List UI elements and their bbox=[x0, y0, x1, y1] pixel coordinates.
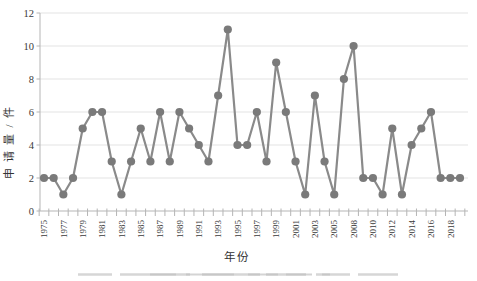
x-tick-label: 2018 bbox=[446, 220, 456, 239]
data-point bbox=[437, 174, 445, 182]
x-tick-label: 1995 bbox=[233, 220, 243, 239]
data-point bbox=[195, 141, 203, 149]
data-point bbox=[272, 58, 280, 66]
data-point bbox=[446, 174, 454, 182]
data-point bbox=[40, 174, 48, 182]
data-point bbox=[359, 174, 367, 182]
x-tick-label: 1991 bbox=[194, 220, 204, 238]
x-tick-label: 2012 bbox=[387, 220, 397, 238]
x-tick-label: 1977 bbox=[59, 220, 69, 239]
data-point bbox=[127, 157, 135, 165]
y-tick-label: 0 bbox=[29, 206, 34, 217]
chart-figure: 0246810121975197719791981198319851987198… bbox=[0, 0, 477, 281]
data-point bbox=[262, 157, 270, 165]
x-tick-label: 1985 bbox=[136, 220, 146, 239]
y-tick-label: 6 bbox=[29, 107, 34, 118]
data-point bbox=[108, 157, 116, 165]
data-point bbox=[253, 108, 261, 116]
data-point bbox=[185, 124, 193, 132]
data-point bbox=[282, 108, 290, 116]
data-point bbox=[233, 141, 241, 149]
data-point bbox=[301, 190, 309, 198]
data-point bbox=[156, 108, 164, 116]
x-tick-label: 1993 bbox=[213, 220, 223, 239]
x-tick-label: 1987 bbox=[155, 220, 165, 239]
x-tick-label: 1979 bbox=[78, 220, 88, 239]
x-tick-label: 1999 bbox=[271, 220, 281, 239]
data-point bbox=[311, 91, 319, 99]
data-point bbox=[408, 141, 416, 149]
x-tick-label: 2005 bbox=[329, 220, 339, 239]
data-point bbox=[417, 124, 425, 132]
x-tick-label: 2003 bbox=[310, 220, 320, 239]
x-tick-label: 2010 bbox=[368, 220, 378, 239]
data-point bbox=[340, 75, 348, 83]
data-point bbox=[88, 108, 96, 116]
data-point bbox=[379, 190, 387, 198]
x-tick-label: 1989 bbox=[175, 220, 185, 239]
data-point bbox=[349, 42, 357, 50]
data-point bbox=[369, 174, 377, 182]
data-point bbox=[398, 190, 406, 198]
x-tick-label: 2008 bbox=[349, 220, 359, 239]
y-axis-title: 申请量/件 bbox=[3, 101, 15, 178]
x-tick-label: 1981 bbox=[97, 220, 107, 238]
data-point bbox=[98, 108, 106, 116]
data-point bbox=[214, 91, 222, 99]
data-point bbox=[243, 141, 251, 149]
data-point bbox=[79, 124, 87, 132]
data-point bbox=[166, 157, 174, 165]
data-point bbox=[175, 108, 183, 116]
data-point bbox=[224, 25, 232, 33]
data-point bbox=[146, 157, 154, 165]
x-tick-label: 1983 bbox=[117, 220, 127, 239]
y-tick-label: 10 bbox=[24, 41, 35, 52]
line-chart: 0246810121975197719791981198319851987198… bbox=[0, 0, 477, 281]
data-point bbox=[388, 124, 396, 132]
data-point bbox=[204, 157, 212, 165]
y-tick-label: 12 bbox=[24, 8, 35, 19]
y-tick-label: 8 bbox=[29, 74, 34, 85]
x-axis-title: 年份 bbox=[224, 250, 251, 263]
data-point bbox=[320, 157, 328, 165]
x-tick-label: 2014 bbox=[407, 220, 417, 239]
data-point bbox=[117, 190, 125, 198]
y-tick-label: 4 bbox=[29, 140, 35, 151]
data-point bbox=[456, 174, 464, 182]
data-point bbox=[50, 174, 58, 182]
data-point bbox=[330, 190, 338, 198]
x-tick-label: 1975 bbox=[39, 220, 49, 239]
data-point bbox=[137, 124, 145, 132]
x-tick-label: 1997 bbox=[252, 220, 262, 239]
data-point bbox=[69, 174, 77, 182]
y-tick-label: 2 bbox=[29, 173, 34, 184]
data-point bbox=[427, 108, 435, 116]
x-tick-label: 2016 bbox=[426, 220, 436, 239]
data-point bbox=[59, 190, 67, 198]
data-point bbox=[291, 157, 299, 165]
x-tick-label: 2001 bbox=[291, 220, 301, 238]
